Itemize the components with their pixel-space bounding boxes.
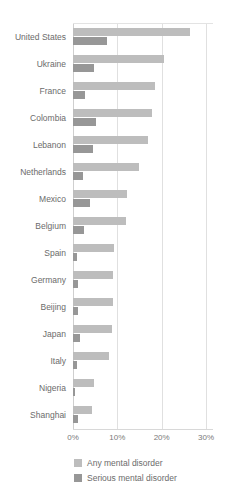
category-label: United States	[0, 32, 66, 42]
category-label: Nigeria	[0, 383, 66, 393]
x-tick-label: 30%	[198, 433, 214, 442]
bar-row	[73, 348, 206, 375]
bar-serious-mental-disorder	[73, 37, 107, 45]
bar-serious-mental-disorder	[73, 361, 77, 369]
legend-swatch-icon	[74, 459, 82, 467]
x-axis-line	[73, 429, 213, 430]
bar-row	[73, 213, 206, 240]
category-label: Shanghai	[0, 410, 66, 420]
bar-any-mental-disorder	[73, 217, 126, 225]
bar-row	[73, 105, 206, 132]
category-label: Belgium	[0, 221, 66, 231]
bar-serious-mental-disorder	[73, 91, 85, 99]
bar-row	[73, 267, 206, 294]
category-label: Germany	[0, 275, 66, 285]
category-label: Mexico	[0, 194, 66, 204]
bar-any-mental-disorder	[73, 271, 113, 279]
bar-serious-mental-disorder	[73, 64, 94, 72]
category-label: Beijing	[0, 302, 66, 312]
category-label: Lebanon	[0, 140, 66, 150]
bar-chart: United StatesUkraineFranceColombiaLebano…	[0, 0, 230, 502]
legend-item[interactable]: Serious mental disorder	[74, 471, 224, 484]
bar-row	[73, 402, 206, 429]
bar-serious-mental-disorder	[73, 145, 93, 153]
bar-any-mental-disorder	[73, 298, 113, 306]
gridline-30pct	[206, 24, 207, 429]
bar-row	[73, 159, 206, 186]
x-tick-label: 0%	[67, 433, 79, 442]
bar-any-mental-disorder	[73, 55, 164, 63]
bar-serious-mental-disorder	[73, 307, 78, 315]
bar-any-mental-disorder	[73, 325, 112, 333]
category-label: Italy	[0, 356, 66, 366]
bar-any-mental-disorder	[73, 136, 148, 144]
bar-row	[73, 375, 206, 402]
bar-row	[73, 186, 206, 213]
category-label: Colombia	[0, 113, 66, 123]
bar-any-mental-disorder	[73, 379, 94, 387]
bar-serious-mental-disorder	[73, 226, 84, 234]
category-label: Spain	[0, 248, 66, 258]
bar-serious-mental-disorder	[73, 334, 80, 342]
legend-swatch-icon	[74, 474, 82, 482]
bar-serious-mental-disorder	[73, 415, 78, 423]
bar-row	[73, 240, 206, 267]
bar-serious-mental-disorder	[73, 199, 90, 207]
bar-any-mental-disorder	[73, 352, 109, 360]
category-label: France	[0, 86, 66, 96]
bar-serious-mental-disorder	[73, 172, 83, 180]
bar-any-mental-disorder	[73, 109, 152, 117]
x-tick-label: 20%	[154, 433, 170, 442]
bar-any-mental-disorder	[73, 190, 127, 198]
category-label: Japan	[0, 329, 66, 339]
bar-any-mental-disorder	[73, 28, 190, 36]
bar-serious-mental-disorder	[73, 388, 75, 396]
plot-area	[73, 24, 206, 429]
bar-serious-mental-disorder	[73, 253, 77, 261]
x-tick-label: 10%	[109, 433, 125, 442]
chart-legend: Any mental disorderSerious mental disord…	[74, 456, 224, 486]
bar-serious-mental-disorder	[73, 280, 78, 288]
bar-row	[73, 51, 206, 78]
bar-row	[73, 24, 206, 51]
bar-any-mental-disorder	[73, 406, 92, 414]
bar-row	[73, 132, 206, 159]
category-label: Netherlands	[0, 167, 66, 177]
legend-label: Any mental disorder	[87, 458, 163, 468]
bar-any-mental-disorder	[73, 163, 139, 171]
bar-serious-mental-disorder	[73, 118, 96, 126]
legend-label: Serious mental disorder	[87, 473, 177, 483]
bar-row	[73, 321, 206, 348]
legend-item[interactable]: Any mental disorder	[74, 456, 224, 469]
category-label: Ukraine	[0, 59, 66, 69]
bar-any-mental-disorder	[73, 244, 114, 252]
bar-row	[73, 78, 206, 105]
bar-row	[73, 294, 206, 321]
bar-any-mental-disorder	[73, 82, 155, 90]
